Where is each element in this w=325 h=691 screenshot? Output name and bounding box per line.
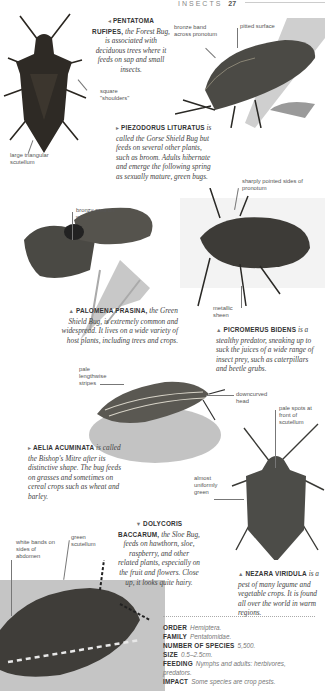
fact-impact: IMPACTSome species are crop pests. bbox=[163, 677, 315, 686]
fact-feeding: FEEDINGNymphs and adults: herbivores, pr… bbox=[163, 659, 315, 677]
label-square-shoulders: square "shoulders" bbox=[100, 88, 140, 102]
header-rule bbox=[245, 2, 325, 3]
leader-line bbox=[237, 28, 238, 48]
label-large-scutellum: large triangular scutellum bbox=[10, 152, 52, 166]
label-sharply-pointed: sharply pointed sides of pronotum bbox=[242, 178, 322, 192]
fact-family: FAMILYPentatomidae. bbox=[163, 632, 315, 641]
fact-number-of-species: NUMBER OF SPECIES5,500. bbox=[163, 641, 315, 650]
caption-piezodorus-lituratus: ▸PIEZODORUS LITURATUS is called the Gors… bbox=[116, 123, 214, 182]
label-pitted-surface: pitted surface bbox=[240, 23, 310, 30]
label-downcurved-head: downcurved head bbox=[236, 391, 278, 405]
species-name: PICROMERUS BIDENS bbox=[223, 326, 296, 333]
species-name: PIEZODORUS LITURATUS bbox=[121, 124, 205, 131]
label-white-bands: white bands on sides of abdomen bbox=[16, 539, 56, 560]
running-header: Insects27 bbox=[178, 0, 236, 7]
caption-picromerus-bidens: ▲PICROMERUS BIDENS is a stealthy predato… bbox=[216, 325, 316, 374]
leader-line bbox=[214, 499, 244, 500]
label-bronze-band: bronze band across pronotum bbox=[174, 24, 218, 38]
caption-pentatoma-rufipes: ◂PENTATOMA RUFIPES, the Forest Bug, is a… bbox=[92, 16, 170, 75]
species-name: PALOMENA PRASINA, bbox=[76, 307, 148, 314]
page-number: 27 bbox=[228, 0, 236, 7]
leader-line bbox=[100, 384, 124, 385]
caption-text: is called the Bishop's Mitre after its d… bbox=[28, 443, 121, 501]
leader-line bbox=[275, 410, 276, 468]
caption-text: the Sloe Bug, feeds on hawthorn, sloe, r… bbox=[118, 530, 200, 587]
label-pale-spots: pale spots at front of scutellum bbox=[279, 405, 321, 426]
label-uniformly-green: almost uniformly green bbox=[194, 475, 228, 496]
caption-text: is called the Gorse Shield Bug but feeds… bbox=[116, 123, 211, 181]
leader-line bbox=[72, 212, 73, 240]
caption-dolycoris-baccarum: ▼DOLYCORIS BACCARUM, the Sloe Bug, feeds… bbox=[118, 519, 200, 587]
fact-box: ORDERHemiptera. FAMILYPentatomidae. NUMB… bbox=[163, 616, 315, 686]
leader-line bbox=[206, 395, 234, 396]
label-bronzy-area: bronzy area on wings bbox=[76, 207, 116, 221]
caption-nezara-viridula: ▲NEZARA VIRIDULA is a pest of many legum… bbox=[238, 569, 324, 618]
leader-line bbox=[241, 286, 242, 308]
caption-palomena-prasina: ▲PALOMENA PRASINA, the Green Shield Bug,… bbox=[60, 306, 178, 345]
leader-line bbox=[11, 560, 12, 616]
picromerus-bidens-image bbox=[180, 188, 325, 308]
pentatoma-rufipes-image bbox=[0, 8, 90, 158]
section-title: Insects bbox=[178, 0, 222, 7]
species-name: AELIA ACUMINATA bbox=[33, 444, 94, 451]
caption-aelia-acuminata: ▸AELIA ACUMINATA is called the Bishop's … bbox=[28, 443, 124, 502]
fact-order: ORDERHemiptera. bbox=[163, 623, 315, 632]
label-green-scutellum: green scutellum bbox=[71, 534, 105, 548]
species-name: NEZARA VIRIDULA bbox=[245, 570, 306, 577]
nezara-viridula-image bbox=[228, 420, 325, 560]
label-metallic-sheen: metallic sheen bbox=[213, 305, 243, 319]
fact-size: SIZE0.5–2.5cm. bbox=[163, 650, 315, 659]
